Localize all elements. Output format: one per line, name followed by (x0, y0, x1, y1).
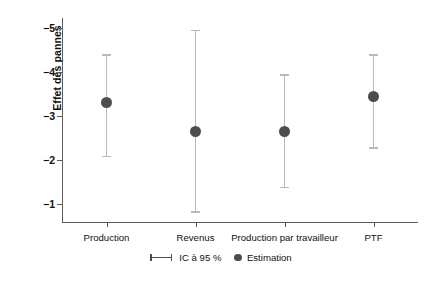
x-tick (196, 222, 197, 227)
error-bar (265, 10, 305, 222)
x-tick-label: PTF (364, 232, 382, 243)
estimate-point (101, 97, 112, 108)
whisker-cap-lower (191, 211, 200, 213)
chart-legend: IC à 95 % Estimation (0, 252, 440, 263)
y-tick (57, 72, 62, 73)
x-tick (374, 222, 375, 227)
y-tick (57, 160, 62, 161)
legend-item-estimate: Estimation (234, 252, 291, 263)
legend-label-estimate: Estimation (247, 252, 292, 263)
error-bar (354, 10, 394, 222)
whisker-cap-lower (369, 147, 378, 149)
estimate-dot-icon (234, 254, 242, 262)
estimate-point (190, 126, 201, 137)
y-tick (57, 116, 62, 117)
x-tick-label: Production (84, 232, 130, 243)
whisker-cap-upper (280, 74, 289, 76)
y-tick-label: −3 (43, 110, 55, 122)
whisker-line (195, 30, 197, 211)
y-axis-line (62, 18, 63, 222)
whisker-cap-lower (280, 187, 289, 189)
legend-item-ci: IC à 95 % (148, 252, 221, 263)
x-tick-label: Production par travailleur (231, 232, 338, 243)
error-bar (176, 10, 216, 222)
y-tick-label: −5 (43, 22, 55, 34)
x-axis-line (62, 222, 418, 223)
chart-container: Effet des pannes −5−4−3−2−1 ProductionRe… (0, 0, 440, 285)
confidence-interval-icon (148, 253, 174, 263)
y-tick-label: −2 (43, 154, 55, 166)
x-tick (285, 222, 286, 227)
whisker-cap-lower (102, 156, 111, 158)
estimate-point (368, 91, 379, 102)
plot-area: −5−4−3−2−1 ProductionRevenusProduction p… (62, 10, 418, 222)
y-tick (57, 204, 62, 205)
legend-label-ci: IC à 95 % (179, 252, 221, 263)
x-tick (107, 222, 108, 227)
whisker-cap-upper (102, 54, 111, 56)
y-tick (57, 28, 62, 29)
x-tick-label: Revenus (177, 232, 215, 243)
whisker-cap-upper (191, 30, 200, 32)
estimate-point (279, 126, 290, 137)
error-bar (87, 10, 127, 222)
whisker-cap-upper (369, 54, 378, 56)
y-tick-label: −1 (43, 198, 55, 210)
y-tick-label: −4 (43, 66, 55, 78)
